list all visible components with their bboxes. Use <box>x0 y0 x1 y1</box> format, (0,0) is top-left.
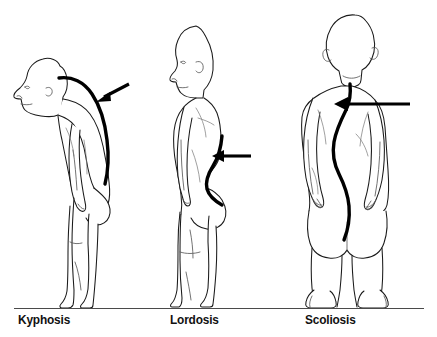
lordosis-figure <box>170 26 251 307</box>
caption-kyphosis: Kyphosis <box>18 312 70 327</box>
caption-row: Kyphosis Lordosis Scoliosis <box>0 312 437 337</box>
scoliosis-leg-right-inner <box>352 256 357 307</box>
kyphosis-leg-back <box>81 214 99 308</box>
scoliosis-leg-left-inner <box>337 256 342 307</box>
kyphosis-arrow <box>96 84 129 102</box>
kyphosis-head <box>14 58 67 116</box>
caption-lordosis: Lordosis <box>170 312 219 327</box>
kyphosis-calf-line <box>75 262 81 290</box>
lordosis-calf-line <box>186 272 191 300</box>
caption-scoliosis: Scoliosis <box>305 312 356 327</box>
kyphosis-leg-front <box>60 198 74 308</box>
lordosis-leg-back <box>201 216 217 307</box>
lordosis-chest-line <box>196 108 206 137</box>
lordosis-knee-line <box>180 252 200 254</box>
scoliosis-foot-right <box>358 290 389 308</box>
kyphosis-figure <box>14 58 129 308</box>
scoliosis-figure <box>302 15 410 308</box>
lordosis-leg-front <box>171 212 183 307</box>
lordosis-abdomen-line <box>192 150 200 182</box>
spinal-conditions-figure: Kyphosis Lordosis Scoliosis <box>0 0 437 337</box>
scoliosis-head <box>326 15 374 87</box>
lordosis-head <box>170 26 213 98</box>
illustration-canvas <box>0 0 437 337</box>
